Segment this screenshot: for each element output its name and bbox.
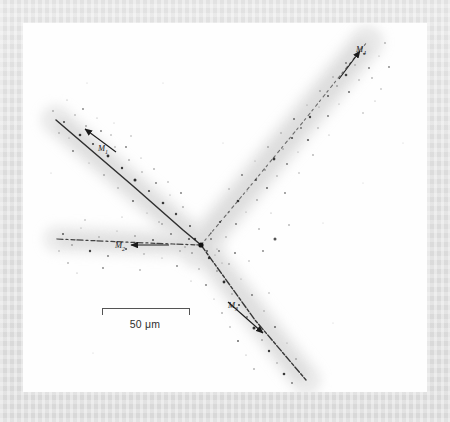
scale-bar-label: 50 μm [102, 318, 188, 330]
track-label-m1: M1 [98, 144, 108, 155]
track-label-m3: M3 [228, 301, 238, 312]
track-label-m3-subscript: 3 [235, 306, 238, 312]
micrograph-plate: M1 M2 M3 M4 50 μm [23, 23, 427, 392]
track-label-m4: M4 [356, 45, 366, 56]
junction-node [198, 242, 203, 247]
figure-root: M1 M2 M3 M4 50 μm [0, 0, 450, 422]
track-label-m2-subscript: 2 [122, 246, 125, 252]
core-m1 [56, 120, 201, 245]
grain-field [23, 23, 427, 392]
track-label-m1-subscript: 1 [105, 149, 108, 155]
scale-bar: 50 μm [102, 308, 212, 330]
track-label-m4-subscript: 4 [363, 50, 366, 56]
halo-inner-m3 [201, 245, 300, 373]
scale-bar-rule [102, 308, 190, 315]
track-label-m2: M2 [115, 241, 125, 252]
